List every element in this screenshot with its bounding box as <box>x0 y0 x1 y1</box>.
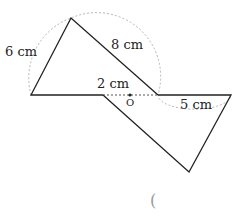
label-2cm: 2 cm <box>97 77 129 90</box>
label-center-o: O <box>126 98 134 108</box>
label-6cm: 6 cm <box>5 45 37 58</box>
label-8cm: 8 cm <box>111 38 143 51</box>
answer-paren: ( <box>150 193 156 209</box>
label-5cm: 5 cm <box>180 98 212 111</box>
upper-triangle <box>31 18 158 95</box>
